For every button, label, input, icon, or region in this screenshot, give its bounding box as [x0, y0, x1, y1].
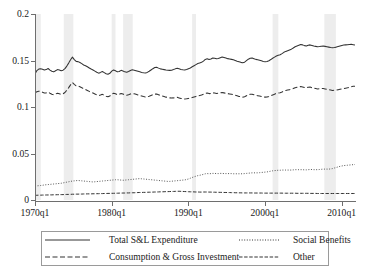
- y-tick-label: 0.2: [17, 9, 29, 19]
- y-tick-label: 0: [24, 195, 29, 205]
- y-tick-mark: [31, 154, 35, 155]
- legend-key-solid: [42, 232, 108, 249]
- x-tick-mark: [188, 202, 189, 206]
- x-tick-mark: [342, 202, 343, 206]
- x-axis-line: [35, 201, 356, 202]
- plot-area: [35, 14, 355, 200]
- y-tick-mark: [31, 61, 35, 62]
- y-tick-mark: [31, 107, 35, 108]
- chart-container: 00.050.10.150.2 1970q11980q11990q12000q1…: [0, 0, 371, 274]
- x-tick-label: 2000q1: [235, 207, 295, 218]
- legend-label: Total S&L Expenditure: [108, 235, 236, 245]
- x-tick-label: 1980q1: [82, 207, 142, 218]
- x-tick-mark: [35, 202, 36, 206]
- recession-band: [64, 14, 74, 200]
- legend-grid: Total S&L ExpenditureSocial BenefitsCons…: [42, 232, 328, 265]
- recession-band: [123, 14, 133, 200]
- legend-key-dotted: [236, 232, 292, 249]
- recession-band: [273, 14, 279, 200]
- legend-key-dashdot: [236, 249, 292, 266]
- x-tick-mark: [265, 202, 266, 206]
- x-tick-label: 1990q1: [158, 207, 218, 218]
- y-tick-label: 0.1: [17, 102, 29, 112]
- x-tick-label: 2010q1: [312, 207, 371, 218]
- recession-band: [324, 14, 335, 200]
- y-tick-label: 0.05: [12, 149, 29, 159]
- legend-label: Consumption & Gross Investment: [108, 252, 236, 262]
- chart-legend: Total S&L ExpenditureSocial BenefitsCons…: [41, 231, 329, 266]
- y-tick-label: 0.15: [12, 56, 29, 66]
- legend-key-dashed: [42, 249, 108, 266]
- recession-band: [112, 14, 116, 200]
- series-canvas: [35, 14, 355, 200]
- y-tick-mark: [31, 14, 35, 15]
- recession-band: [192, 14, 196, 200]
- legend-label: Social Benefits: [292, 235, 350, 245]
- x-tick-mark: [112, 202, 113, 206]
- y-axis-line: [35, 14, 36, 201]
- legend-label: Other: [292, 252, 350, 262]
- x-tick-label: 1970q1: [5, 207, 65, 218]
